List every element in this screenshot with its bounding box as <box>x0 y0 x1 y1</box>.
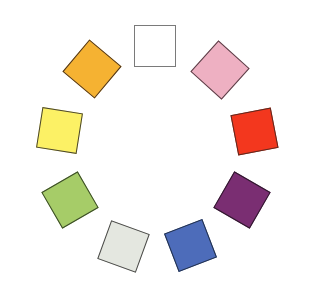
swatch-label: yellow <box>43 108 44 109</box>
swatch-label: orange <box>89 41 90 42</box>
swatch-orange: orange <box>62 39 121 98</box>
swatch-label: purple <box>234 173 235 174</box>
swatch-label: white <box>135 26 136 27</box>
swatch-blue: blue <box>164 219 217 272</box>
swatch-label: light-gray <box>111 221 112 222</box>
swatch-label: pink <box>218 42 219 43</box>
swatch-label: blue <box>165 233 166 234</box>
color-wheel-diagram: white pink red purple blue light-gray gr… <box>0 0 312 291</box>
swatch-yellow: yellow <box>36 107 83 154</box>
swatch-label: red <box>231 115 232 116</box>
swatch-purple: purple <box>213 171 270 228</box>
swatch-white: white <box>134 25 176 67</box>
swatch-light-gray: light-gray <box>97 220 150 273</box>
swatch-label: green <box>43 192 44 193</box>
swatch-red: red <box>230 107 278 155</box>
swatch-green: green <box>41 171 98 228</box>
swatch-pink: pink <box>190 40 249 99</box>
